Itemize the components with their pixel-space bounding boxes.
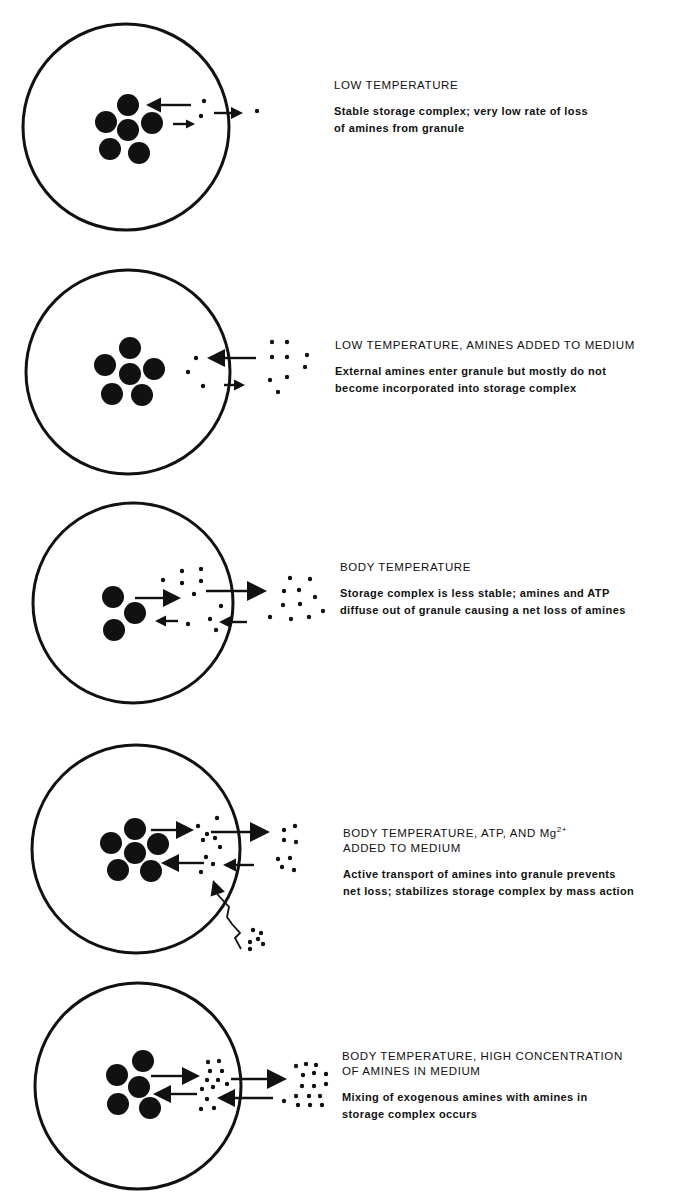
- amine-molecule-dot: [206, 1060, 210, 1064]
- amine-molecule-dot: [312, 1084, 316, 1088]
- amine-molecule-dot: [199, 1107, 203, 1111]
- heading-line: BODY TEMPERATURE, ATP, AND Mg2+: [343, 822, 634, 841]
- amine-molecule-dot: [248, 940, 252, 944]
- arrow-head-icon: [217, 1089, 235, 1107]
- amine-molecule-dot: [276, 857, 280, 861]
- amine-molecule-dot: [307, 615, 311, 619]
- amine-molecule-dot: [205, 832, 209, 836]
- amine-molecule-dot: [180, 581, 184, 585]
- mg-charge-superscript: 2+: [557, 825, 567, 834]
- heading-line: BODY TEMPERATURE, HIGH CONCENTRATION: [342, 1049, 623, 1064]
- amine-molecule-dot: [296, 1103, 300, 1107]
- amine-molecule-dot: [285, 375, 289, 379]
- storage-complex-sphere: [124, 818, 146, 840]
- amine-molecule-dot: [288, 856, 292, 860]
- amine-molecule-dot: [216, 1078, 220, 1082]
- amine-molecule-dot: [280, 865, 284, 869]
- panel-body-temperature-high-amines: [35, 983, 328, 1189]
- amine-molecule-dot: [219, 604, 223, 608]
- amine-molecule-dot: [196, 824, 200, 828]
- amine-molecule-dot: [204, 855, 208, 859]
- arrow-head-icon: [231, 107, 243, 119]
- storage-complex-sphere: [107, 1093, 129, 1115]
- description-line: External amines enter granule but mostly…: [335, 363, 635, 380]
- panel-heading: BODY TEMPERATURE, HIGH CONCENTRATION OF …: [342, 1049, 623, 1079]
- storage-complex-sphere: [94, 354, 116, 376]
- amine-molecule-dot: [268, 615, 272, 619]
- description-line: Stable storage complex; very low rate of…: [334, 103, 588, 120]
- panel-description: Mixing of exogenous amines with amines i…: [342, 1089, 623, 1123]
- amine-molecule-dot: [261, 942, 265, 946]
- amine-molecule-dot: [199, 114, 203, 118]
- storage-complex-sphere: [101, 383, 123, 405]
- amine-molecule-dot: [292, 868, 296, 872]
- storage-complex-sphere: [117, 94, 139, 116]
- amine-molecule-dot: [220, 1069, 224, 1073]
- arrow-head-icon: [219, 616, 231, 628]
- amine-molecule-dot: [200, 1087, 204, 1091]
- amine-molecule-dot: [293, 824, 297, 828]
- amine-molecule-dot: [282, 1099, 286, 1103]
- panel-body-temperature: [33, 503, 325, 703]
- heading-line: LOW TEMPERATURE: [334, 78, 588, 93]
- storage-complex-sphere: [124, 842, 146, 864]
- arrow-head-icon: [267, 1069, 287, 1089]
- arrow-head-icon: [211, 880, 225, 897]
- amine-molecule-dot: [255, 109, 259, 113]
- storage-complex-sphere: [140, 860, 162, 882]
- amine-molecule-dot: [308, 1103, 312, 1107]
- storage-complex-sphere: [132, 1050, 154, 1072]
- panel-description: Stable storage complex; very low rate of…: [334, 103, 588, 137]
- storage-complex-sphere: [124, 602, 146, 624]
- storage-complex-sphere: [119, 337, 141, 359]
- arrow-head-icon: [155, 616, 166, 627]
- description-line: of amines from granule: [334, 120, 588, 137]
- amine-molecule-dot: [297, 588, 301, 592]
- panel-description: Active transport of amines into granule …: [343, 866, 634, 900]
- storage-complex-sphere: [141, 112, 163, 134]
- storage-complex-sphere: [103, 619, 125, 641]
- amine-molecule-dot: [321, 609, 325, 613]
- panel-low-temperature-amines-added: [26, 270, 309, 474]
- amine-molecule-dot: [256, 937, 260, 941]
- amine-molecule-dot: [202, 99, 206, 103]
- amine-molecule-dot: [324, 1072, 328, 1076]
- amine-molecule-dot: [186, 370, 190, 374]
- arrow-head-icon: [182, 1067, 200, 1085]
- panel-body-temperature-atp-mg-text: BODY TEMPERATURE, ATP, AND Mg2+ ADDED TO…: [343, 822, 634, 900]
- storage-complex-sphere: [95, 111, 117, 133]
- amine-molecule-dot: [199, 870, 203, 874]
- amine-molecule-dot: [294, 840, 298, 844]
- arrow-head-icon: [223, 859, 236, 872]
- amine-molecule-dot: [288, 576, 292, 580]
- panel-low-temperature-amines-added-text: LOW TEMPERATURE, AMINES ADDED TO MEDIUM …: [335, 338, 635, 397]
- amine-molecule-dot: [300, 1084, 304, 1088]
- description-line: Storage complex is less stable; amines a…: [340, 585, 626, 602]
- amine-molecule-dot: [312, 1071, 316, 1075]
- panel-description: Storage complex is less stable; amines a…: [340, 585, 626, 619]
- panel-heading: BODY TEMPERATURE: [340, 560, 626, 575]
- panel-description: External amines enter granule but mostly…: [335, 363, 635, 397]
- amine-molecule-dot: [201, 838, 205, 842]
- active-transport-path: [218, 895, 241, 949]
- amine-molecule-dot: [308, 577, 312, 581]
- heading-line-text: BODY TEMPERATURE, ATP, AND Mg: [343, 827, 557, 839]
- amine-molecule-dot: [282, 589, 286, 593]
- amine-molecule-dot: [180, 569, 184, 573]
- storage-complex-sphere: [99, 138, 121, 160]
- amine-molecule-dot: [298, 602, 302, 606]
- amine-molecule-dot: [217, 1059, 221, 1063]
- amine-molecule-dot: [208, 1069, 212, 1073]
- amine-molecule-dot: [314, 1063, 318, 1067]
- amine-molecule-dot: [313, 595, 317, 599]
- amine-molecule-dot: [276, 390, 280, 394]
- amine-molecule-dot: [201, 384, 205, 388]
- amine-molecule-dot: [205, 1078, 209, 1082]
- heading-line: BODY TEMPERATURE: [340, 560, 626, 575]
- amine-molecule-dot: [211, 862, 215, 866]
- arrow-head-icon: [146, 98, 161, 113]
- amine-molecule-dot: [294, 1064, 298, 1068]
- storage-complex-sphere: [106, 1064, 128, 1086]
- amine-molecule-dot: [214, 628, 218, 632]
- description-line: Active transport of amines into granule …: [343, 866, 634, 883]
